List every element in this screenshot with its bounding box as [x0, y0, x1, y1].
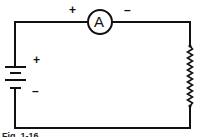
figure-caption: Fig. 1-16: [2, 131, 39, 137]
battery-plus-label: +: [33, 54, 40, 66]
battery-minus-label: –: [32, 85, 39, 97]
battery-icon: [5, 67, 26, 88]
ammeter-plus-label: +: [69, 4, 76, 16]
ammeter-minus-label: –: [124, 4, 131, 16]
resistor-icon: [188, 44, 193, 107]
ammeter-letter: A: [94, 14, 104, 29]
